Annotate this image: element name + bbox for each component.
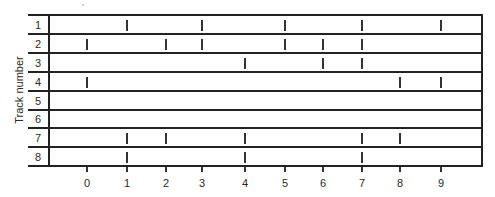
track-label: 4 <box>28 76 48 88</box>
row-divider <box>28 90 483 92</box>
track-mark <box>399 77 401 88</box>
track-mark <box>126 152 128 163</box>
x-tick-label: 7 <box>354 177 370 189</box>
right-border <box>481 14 483 167</box>
track-label: 3 <box>28 57 48 69</box>
track-mark <box>165 39 167 50</box>
track-mark <box>126 20 128 31</box>
track-mark <box>361 58 363 69</box>
track-mark <box>126 133 128 144</box>
x-tick <box>284 167 286 172</box>
label-column-divider <box>48 14 50 167</box>
x-tick <box>165 167 167 172</box>
track-mark <box>86 77 88 88</box>
row-divider <box>28 71 483 73</box>
x-tick-label: 2 <box>158 177 174 189</box>
track-mark <box>361 133 363 144</box>
track-mark <box>361 152 363 163</box>
track-mark <box>244 152 246 163</box>
row-divider <box>28 165 483 167</box>
track-label: 6 <box>28 113 48 125</box>
track-label: 8 <box>28 151 48 163</box>
row-divider <box>28 14 483 16</box>
track-mark <box>201 39 203 50</box>
stray-dot <box>82 4 84 6</box>
x-tick <box>440 167 442 172</box>
x-tick <box>86 167 88 172</box>
y-axis-label: Track number <box>13 45 25 135</box>
track-mark <box>244 133 246 144</box>
track-label: 1 <box>28 19 48 31</box>
x-tick-label: 3 <box>194 177 210 189</box>
track-mark <box>201 20 203 31</box>
track-mark <box>284 20 286 31</box>
row-divider <box>28 127 483 129</box>
track-mark <box>440 77 442 88</box>
row-divider <box>28 109 483 111</box>
x-tick <box>322 167 324 172</box>
x-tick-label: 5 <box>277 177 293 189</box>
x-tick <box>126 167 128 172</box>
x-tick <box>399 167 401 172</box>
track-mark <box>244 58 246 69</box>
track-mark <box>284 39 286 50</box>
x-tick-label: 0 <box>79 177 95 189</box>
x-tick-label: 1 <box>119 177 135 189</box>
track-mark <box>361 39 363 50</box>
row-divider <box>28 146 483 148</box>
row-divider <box>28 33 483 35</box>
x-tick <box>201 167 203 172</box>
x-tick <box>244 167 246 172</box>
x-tick-label: 8 <box>392 177 408 189</box>
track-label: 2 <box>28 38 48 50</box>
track-mark <box>361 20 363 31</box>
track-mark <box>399 133 401 144</box>
x-tick-label: 4 <box>237 177 253 189</box>
track-mark <box>440 20 442 31</box>
track-label: 5 <box>28 95 48 107</box>
track-mark <box>322 58 324 69</box>
track-label: 7 <box>28 132 48 144</box>
row-divider <box>28 52 483 54</box>
x-tick-label: 6 <box>315 177 331 189</box>
track-mark <box>322 39 324 50</box>
track-mark <box>165 133 167 144</box>
x-tick <box>361 167 363 172</box>
track-mark <box>86 39 88 50</box>
x-tick-label: 9 <box>433 177 449 189</box>
